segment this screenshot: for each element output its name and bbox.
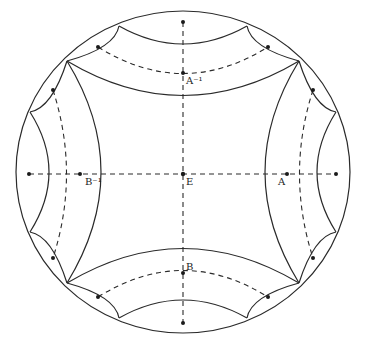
poincare-disk-diagram: [0, 0, 365, 352]
geodesic-left: [67, 61, 101, 283]
label-b-inverse: B⁻¹: [85, 177, 102, 187]
geodesic-right-outer: [317, 112, 336, 232]
label-e: E: [186, 177, 193, 187]
geodesic-left-outer: [30, 112, 49, 232]
label-a-inverse: A⁻¹: [186, 76, 203, 86]
label-a: A: [278, 177, 285, 187]
label-b: B: [186, 262, 193, 272]
geodesic-right: [265, 61, 299, 283]
